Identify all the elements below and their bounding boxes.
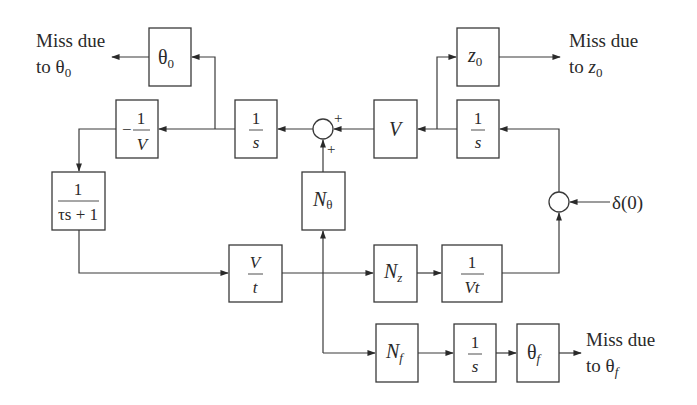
block-velocity: V [374, 100, 417, 158]
block-theta-f: θf [517, 324, 559, 382]
block-diagram: θ0 − 1 V 1 s + + V 1 s z0 [0, 0, 697, 405]
svg-text:1: 1 [137, 109, 146, 128]
output-label-theta0: Miss due to θ0 [36, 30, 105, 80]
block-n-f: Nf [376, 324, 418, 382]
svg-text:+: + [334, 110, 342, 126]
svg-text:1: 1 [74, 180, 83, 199]
output-label-thetaf: Miss due to θf [586, 329, 655, 379]
svg-text:1: 1 [471, 333, 480, 352]
block-n-theta: Nθ [302, 172, 345, 230]
svg-text:τs + 1: τs + 1 [58, 205, 98, 224]
svg-text:δ(0): δ(0) [612, 192, 643, 214]
svg-text:Vt: Vt [464, 278, 480, 297]
block-integrator-theta: 1 s [235, 100, 277, 158]
output-label-z0: Miss due to z0 [569, 30, 638, 80]
svg-text:Miss due: Miss due [36, 30, 105, 51]
block-neg-inv-v: − 1 V [116, 100, 158, 158]
svg-text:Miss due: Miss due [586, 329, 655, 350]
svg-text:Miss due: Miss due [569, 30, 638, 51]
svg-text:s: s [475, 133, 482, 152]
svg-text:to θf: to θf [586, 355, 621, 379]
svg-text:1: 1 [252, 109, 261, 128]
block-lag: 1 τs + 1 [52, 172, 105, 230]
block-integrator-f: 1 s [454, 324, 496, 382]
block-z0: z0 [457, 28, 499, 86]
svg-text:s: s [253, 133, 260, 152]
summing-junction-right [549, 192, 569, 212]
summing-junction-upper: + + [313, 110, 342, 157]
block-n-z: Nz [374, 245, 417, 302]
svg-text:+: + [327, 141, 335, 157]
block-integrator-z: 1 s [457, 100, 499, 158]
svg-text:s: s [472, 357, 479, 376]
svg-text:to θ0: to θ0 [36, 56, 71, 80]
svg-text:1: 1 [474, 109, 483, 128]
svg-text:1: 1 [468, 253, 477, 272]
input-label-delta: δ(0) [612, 192, 643, 214]
block-inv-vt: 1 Vt [442, 245, 502, 302]
block-theta0: θ0 [149, 28, 191, 86]
svg-text:to z0: to z0 [569, 56, 602, 80]
svg-text:−: − [122, 120, 132, 139]
block-v-over-t: V t [229, 245, 282, 302]
